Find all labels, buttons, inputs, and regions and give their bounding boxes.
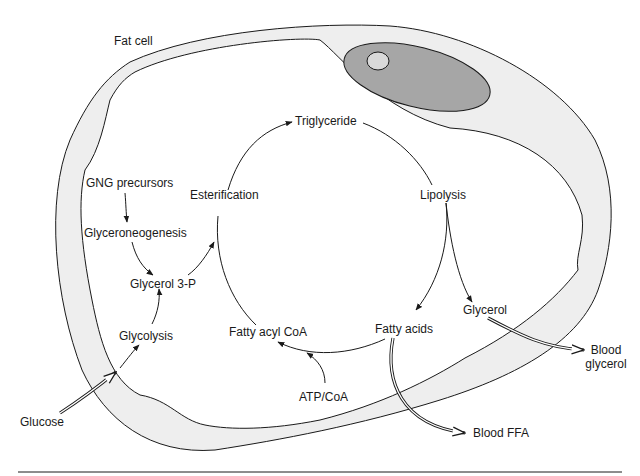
cell-label: Fat cell xyxy=(114,34,153,48)
node-glyceroneogenesis: Glyceroneogenesis xyxy=(84,226,187,240)
node-blood-glycerol: Blood glycerol xyxy=(584,343,628,371)
node-gng-precursors: GNG precursors xyxy=(86,176,173,190)
node-lipolysis: Lipolysis xyxy=(420,188,466,202)
blood-glycerol-line1: Blood xyxy=(584,343,628,357)
nucleolus xyxy=(367,52,389,70)
node-esterification: Esterification xyxy=(190,188,259,202)
node-fatty-acyl-coa: Fatty acyl CoA xyxy=(229,325,307,339)
node-glycerol-3p: Glycerol 3-P xyxy=(130,277,196,291)
node-fatty-acids: Fatty acids xyxy=(375,322,433,336)
node-blood-ffa: Blood FFA xyxy=(473,426,529,440)
node-atp-coa: ATP/CoA xyxy=(299,390,348,404)
fat-cell-metabolism-diagram: Fat cell Triglyceride Esterification Lip… xyxy=(0,0,640,476)
node-triglyceride: Triglyceride xyxy=(295,114,357,128)
node-glycolysis: Glycolysis xyxy=(119,329,173,343)
node-glycerol: Glycerol xyxy=(463,303,507,317)
blood-glycerol-line2: glycerol xyxy=(584,357,628,371)
node-glucose: Glucose xyxy=(20,415,64,429)
